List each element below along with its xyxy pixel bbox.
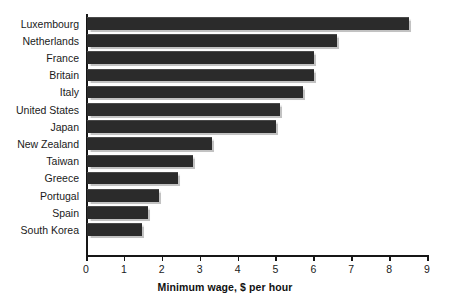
bar-row bbox=[86, 222, 427, 239]
category-label: Spain bbox=[0, 205, 82, 222]
tick-mark bbox=[351, 255, 353, 261]
bar-row bbox=[86, 84, 427, 101]
bar-row bbox=[86, 170, 427, 187]
tick-mark bbox=[238, 255, 240, 261]
bar bbox=[87, 189, 159, 202]
bar bbox=[87, 206, 148, 219]
tick-label: 4 bbox=[226, 263, 250, 275]
bar bbox=[87, 172, 178, 185]
category-label: France bbox=[0, 50, 82, 67]
tick-label: 8 bbox=[377, 263, 401, 275]
tick-mark bbox=[275, 255, 277, 261]
category-label: Italy bbox=[0, 84, 82, 101]
bar-row bbox=[86, 205, 427, 222]
tick-label: 2 bbox=[150, 263, 174, 275]
bar-row bbox=[86, 119, 427, 136]
bar-row bbox=[86, 136, 427, 153]
bar-row bbox=[86, 16, 427, 33]
bar-row bbox=[86, 102, 427, 119]
bar bbox=[87, 120, 276, 133]
category-label: South Korea bbox=[0, 222, 82, 239]
bar bbox=[87, 86, 303, 99]
bar bbox=[87, 103, 280, 116]
category-label: Portugal bbox=[0, 188, 82, 205]
category-axis-labels: LuxembourgNetherlandsFranceBritainItalyU… bbox=[0, 14, 82, 255]
bar bbox=[87, 51, 314, 64]
plot-area bbox=[86, 14, 427, 255]
minimum-wage-bar-chart: LuxembourgNetherlandsFranceBritainItalyU… bbox=[0, 0, 450, 305]
tick-label: 1 bbox=[112, 263, 136, 275]
tick-label: 0 bbox=[74, 263, 98, 275]
bar bbox=[87, 137, 212, 150]
tick-mark bbox=[124, 255, 126, 261]
tick-mark bbox=[389, 255, 391, 261]
tick-mark bbox=[86, 255, 88, 261]
bar-series bbox=[86, 14, 427, 255]
tick-mark bbox=[313, 255, 315, 261]
bar-row bbox=[86, 153, 427, 170]
x-axis-title: Minimum wage, $ per hour bbox=[0, 281, 450, 293]
category-label: Greece bbox=[0, 170, 82, 187]
tick-label: 5 bbox=[263, 263, 287, 275]
category-label: United States bbox=[0, 102, 82, 119]
tick-mark bbox=[427, 255, 429, 261]
bar bbox=[87, 223, 142, 236]
tick-label: 6 bbox=[301, 263, 325, 275]
category-label: New Zealand bbox=[0, 136, 82, 153]
bar bbox=[87, 69, 314, 82]
category-label: Japan bbox=[0, 119, 82, 136]
category-label: Luxembourg bbox=[0, 16, 82, 33]
bar bbox=[87, 155, 193, 168]
category-label: Netherlands bbox=[0, 33, 82, 50]
bar-row bbox=[86, 33, 427, 50]
category-label: Taiwan bbox=[0, 153, 82, 170]
bar-row bbox=[86, 188, 427, 205]
bar bbox=[87, 34, 337, 47]
tick-label: 9 bbox=[415, 263, 439, 275]
category-label: Britain bbox=[0, 67, 82, 84]
tick-label: 3 bbox=[188, 263, 212, 275]
bar bbox=[87, 17, 409, 30]
tick-mark bbox=[162, 255, 164, 261]
bar-row bbox=[86, 67, 427, 84]
tick-mark bbox=[200, 255, 202, 261]
bar-row bbox=[86, 50, 427, 67]
tick-label: 7 bbox=[339, 263, 363, 275]
